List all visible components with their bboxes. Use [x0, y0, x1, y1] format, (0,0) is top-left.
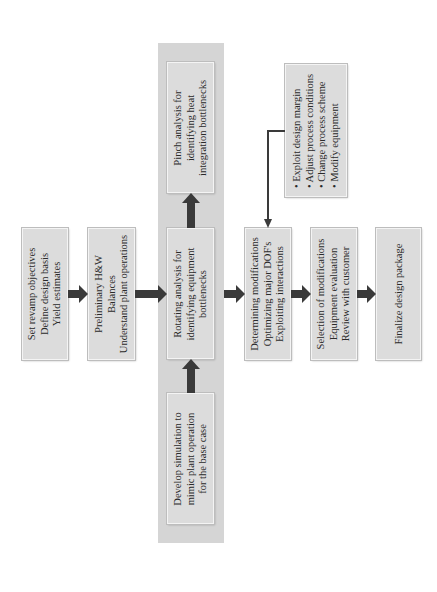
arrow-up-icon [182, 193, 200, 228]
arrow-right-icon [68, 285, 88, 303]
arrow-right-icon [291, 285, 311, 303]
arrow-up-icon [182, 359, 200, 393]
flow-arrows [0, 0, 437, 592]
arrow-right-icon [135, 285, 167, 303]
arrow-right-icon [357, 285, 376, 303]
connector-arrow-down-icon [268, 131, 285, 220]
arrow-right-icon [224, 285, 245, 303]
